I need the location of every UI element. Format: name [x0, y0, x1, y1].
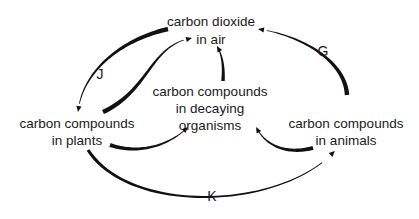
node-decaying: carbon compounds in decaying organisms: [153, 84, 268, 133]
arrowhead-icon: [256, 127, 261, 134]
carbon-cycle-diagram: carbon dioxide in air carbon compounds i…: [0, 0, 419, 219]
arrow-shaft: [258, 130, 314, 151]
node-air-line-2: in air: [196, 32, 226, 47]
arrowhead-icon: [258, 27, 264, 32]
node-air: carbon dioxide in air: [167, 14, 255, 47]
node-plants-line-2: in plants: [52, 133, 103, 148]
node-animals-line-2: in animals: [316, 133, 377, 148]
arrow-shaft: [87, 149, 323, 198]
arrow-shaft: [102, 40, 184, 114]
arrowhead-icon: [329, 151, 335, 157]
arrow-animals-to-air: [258, 27, 349, 95]
node-animals: carbon compounds in animals: [289, 116, 404, 148]
node-decaying-line-3: organisms: [179, 118, 242, 133]
node-plants-line-1: carbon compounds: [20, 116, 135, 131]
arrow-shaft: [218, 48, 225, 81]
arrow-shaft: [109, 130, 184, 150]
node-air-line-1: carbon dioxide: [167, 14, 255, 29]
edge-label-J: J: [97, 66, 104, 82]
node-decaying-line-1: carbon compounds: [153, 84, 268, 99]
node-decaying-line-2: in decaying: [176, 101, 244, 116]
arrow-shaft: [267, 30, 349, 95]
node-plants: carbon compounds in plants: [20, 116, 135, 148]
arrow-decaying-to-air: [217, 46, 225, 81]
edge-label-K: K: [207, 188, 217, 204]
node-animals-line-1: carbon compounds: [289, 116, 404, 131]
arrowhead-icon: [186, 37, 192, 42]
edge-label-G: G: [318, 43, 329, 59]
arrowhead-icon: [76, 106, 81, 112]
